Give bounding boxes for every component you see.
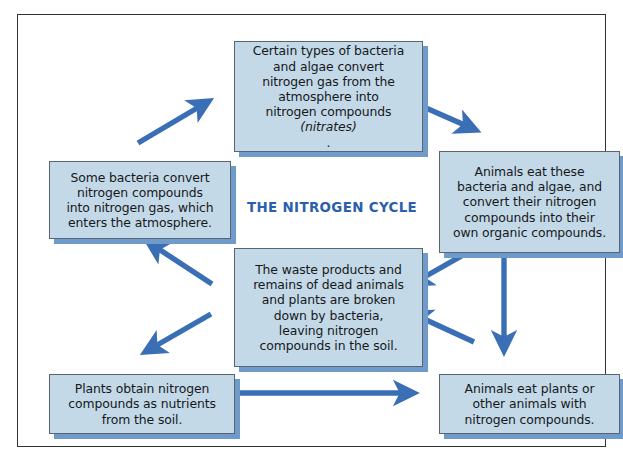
- box-animals-eat-bacteria-algae: Animals eat these bacteria and algae, an…: [439, 151, 620, 253]
- animals-eat-microbes-line-1: Animals eat these: [445, 164, 614, 179]
- animals-eat-plants-line-1: Animals eat plants or: [445, 381, 614, 396]
- fixation-line-6-tail: .: [240, 135, 417, 150]
- decomposition-line-5: leaving nitrogen: [240, 323, 417, 338]
- decomposition-line-6: compounds in the soil.: [240, 338, 417, 353]
- arrow-decomposition-to-denitrification: [148, 242, 212, 284]
- animals-eat-microbes-line-2: bacteria and algae, and: [445, 179, 614, 194]
- decomposition-line-3: and plants are broken: [240, 292, 417, 307]
- box-animals-eat-plants: Animals eat plants or other animals with…: [439, 374, 620, 434]
- fixation-line-2: and algae convert: [240, 59, 417, 74]
- animals-eat-microbes-line-4: compounds into their: [445, 210, 614, 225]
- diagram-title: THE NITROGEN CYCLE: [234, 200, 430, 215]
- arrow-denitrification-to-fixation: [138, 101, 209, 143]
- diagram-frame: Certain types of bacteria and algae conv…: [17, 14, 606, 447]
- animals-eat-plants-line-2: other animals with: [445, 396, 614, 411]
- decomposition-line-4: down by bacteria,: [240, 308, 417, 323]
- decomposition-line-1: The waste products and: [240, 262, 417, 277]
- fixation-line-6: (nitrates).: [240, 119, 417, 149]
- box-nitrogen-fixation: Certain types of bacteria and algae conv…: [234, 41, 423, 152]
- animals-eat-microbes-line-5: own organic compounds.: [445, 225, 614, 240]
- box-denitrification: Some bacteria convert nitrogen compounds…: [49, 161, 231, 239]
- nitrogen-cycle-diagram: Certain types of bacteria and algae conv…: [0, 0, 623, 462]
- denitrification-line-2: nitrogen compounds: [55, 185, 225, 200]
- denitrification-line-4: enters the atmosphere.: [55, 215, 225, 230]
- fixation-line-3: nitrogen gas from the: [240, 74, 417, 89]
- fixation-line-1: Certain types of bacteria: [240, 43, 417, 58]
- animals-eat-plants-line-3: nitrogen compounds.: [445, 412, 614, 427]
- box-plants-obtain-nitrogen: Plants obtain nitrogen compounds as nutr…: [49, 374, 235, 434]
- denitrification-line-3: into nitrogen gas, which: [55, 200, 225, 215]
- decomposition-line-2: remains of dead animals: [240, 277, 417, 292]
- fixation-nitrates-italic: (nitrates): [300, 119, 356, 134]
- box-decomposition: The waste products and remains of dead a…: [234, 248, 423, 367]
- denitrification-line-1: Some bacteria convert: [55, 170, 225, 185]
- arrow-decomposition-to-plants-uptake: [145, 314, 211, 352]
- plants-uptake-line-1: Plants obtain nitrogen: [55, 381, 229, 396]
- fixation-line-4: atmosphere into: [240, 89, 417, 104]
- fixation-line-5: nitrogen compounds: [240, 104, 417, 119]
- plants-uptake-line-2: compounds as nutrients: [55, 396, 229, 411]
- plants-uptake-line-3: from the soil.: [55, 412, 229, 427]
- animals-eat-microbes-line-3: convert their nitrogen: [445, 194, 614, 209]
